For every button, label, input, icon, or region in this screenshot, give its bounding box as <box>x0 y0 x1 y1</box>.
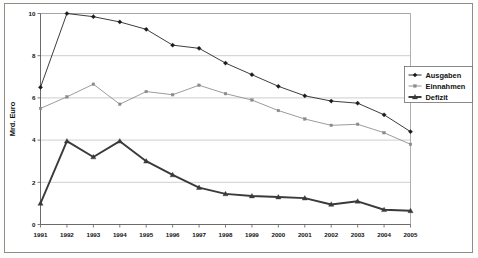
line-chart-canvas: 0246810199119921993199419951996199719981… <box>0 0 478 258</box>
legend-label-defizit: Defizit <box>426 93 449 102</box>
datapoint-ausgaben-1998 <box>223 61 227 65</box>
y-tick-label-4: 4 <box>32 136 36 143</box>
datapoint-ausgaben-1997 <box>197 46 201 50</box>
datapoint-defizit-1994 <box>117 139 122 143</box>
series-defizit <box>38 139 413 213</box>
series-line-ausgaben <box>41 14 411 132</box>
datapoint-ausgaben-2000 <box>276 84 280 88</box>
datapoint-einnahmen-2005 <box>409 143 412 146</box>
datapoint-ausgaben-2004 <box>382 113 386 117</box>
y-tick-label-6: 6 <box>32 94 36 101</box>
datapoint-einnahmen-1993 <box>92 83 95 86</box>
x-axis-ticks: 1991199219931994199519961997199819992000… <box>34 225 418 238</box>
y-axis-ticks: 0246810 <box>29 10 41 228</box>
datapoint-ausgaben-2001 <box>303 94 307 98</box>
datapoint-einnahmen-2004 <box>383 131 386 134</box>
chart-root: 0246810199119921993199419951996199719981… <box>0 0 478 258</box>
series-einnahmen <box>39 83 412 146</box>
datapoint-ausgaben-1995 <box>144 27 148 31</box>
datapoint-einnahmen-1997 <box>198 84 201 87</box>
datapoint-ausgaben-1996 <box>171 43 175 47</box>
datapoint-ausgaben-1994 <box>118 20 122 24</box>
legend-label-ausgaben: Ausgaben <box>426 71 462 80</box>
datapoint-defizit-1992 <box>64 139 69 143</box>
datapoint-ausgaben-1992 <box>65 11 69 15</box>
x-tick-label-1994: 1994 <box>113 231 127 238</box>
x-tick-label-2004: 2004 <box>377 231 391 238</box>
series-line-defizit <box>41 141 411 211</box>
datapoint-einnahmen-2002 <box>330 124 333 127</box>
x-tick-label-2002: 2002 <box>324 231 338 238</box>
x-tick-label-1991: 1991 <box>34 231 48 238</box>
datapoint-einnahmen-2003 <box>356 123 359 126</box>
gridlines <box>41 14 411 183</box>
x-tick-label-1997: 1997 <box>192 231 206 238</box>
datapoint-einnahmen-1991 <box>39 107 42 110</box>
datapoint-einnahmen-1992 <box>66 96 69 99</box>
datapoint-ausgaben-2003 <box>356 101 360 105</box>
datapoint-ausgaben-1999 <box>250 73 254 77</box>
datapoint-einnahmen-1998 <box>224 92 227 95</box>
x-tick-label-1998: 1998 <box>219 231 233 238</box>
datapoint-einnahmen-2001 <box>303 118 306 121</box>
datapoint-ausgaben-2005 <box>408 130 412 134</box>
y-tick-label-10: 10 <box>29 10 36 17</box>
datapoint-einnahmen-1999 <box>251 99 254 102</box>
x-tick-label-1993: 1993 <box>86 231 100 238</box>
legend-marker-einnahmen <box>414 85 417 88</box>
x-tick-label-1996: 1996 <box>166 231 180 238</box>
datapoint-einnahmen-1995 <box>145 90 148 93</box>
y-axis-title: Mrd. Euro <box>8 101 17 136</box>
y-tick-label-2: 2 <box>32 179 36 186</box>
datapoint-ausgaben-1991 <box>38 85 42 89</box>
x-tick-label-2003: 2003 <box>351 231 365 238</box>
datapoint-ausgaben-2002 <box>329 99 333 103</box>
datapoint-einnahmen-2000 <box>277 109 280 112</box>
datapoint-einnahmen-1994 <box>118 103 121 106</box>
datapoint-ausgaben-1993 <box>91 15 95 19</box>
x-tick-label-1999: 1999 <box>245 231 259 238</box>
chart-legend: AusgabenEinnahmenDefizit <box>405 67 473 103</box>
x-tick-label-2000: 2000 <box>271 231 285 238</box>
x-tick-label-2001: 2001 <box>298 231 312 238</box>
series-ausgaben <box>38 11 412 133</box>
x-tick-label-1992: 1992 <box>60 231 74 238</box>
datapoint-einnahmen-1996 <box>171 93 174 96</box>
x-tick-label-1995: 1995 <box>139 231 153 238</box>
y-tick-label-8: 8 <box>32 52 36 59</box>
y-tick-label-0: 0 <box>32 221 36 228</box>
x-tick-label-2005: 2005 <box>404 231 418 238</box>
legend-label-einnahmen: Einnahmen <box>426 82 466 91</box>
